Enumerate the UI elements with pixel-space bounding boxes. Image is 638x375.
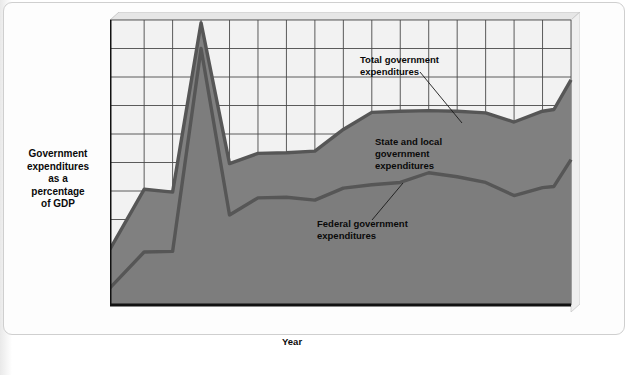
x-tick-label-1955: 1955 xyxy=(247,311,269,312)
annotation-federal-line-1: Federal government xyxy=(317,218,409,229)
x-tick-label-1965: 1965 xyxy=(304,311,326,312)
x-tick-label-1990: 1990 xyxy=(447,311,468,312)
annotation-state-line-2: government xyxy=(375,148,430,159)
x-tick-label-1950: 1950 xyxy=(219,311,240,312)
y-axis-title: Government expenditures as a percentage … xyxy=(12,148,104,211)
annotation-state-line-1: State and local xyxy=(375,136,442,147)
plot-bevel-right xyxy=(571,12,580,312)
x-tick-label-2010: 2010 xyxy=(560,311,580,312)
y-axis-title-line-2: expenditures xyxy=(12,161,104,174)
chart-page: Government expenditures as a percentage … xyxy=(0,0,638,375)
annotation-state-line-3: expenditures xyxy=(375,160,434,171)
x-tick-label-1985: 1985 xyxy=(418,311,440,312)
x-tick-label-1940: 1940 xyxy=(162,311,183,312)
annotation-federal-line-2: expenditures xyxy=(317,230,376,241)
plot-bevel-top xyxy=(110,12,580,20)
x-tick-label-1995: 1995 xyxy=(475,311,497,312)
y-axis-title-line-5: of GDP xyxy=(12,198,104,211)
x-tick-label-1945: 1945 xyxy=(190,311,212,312)
annotation-total-line-2: expenditures xyxy=(360,66,419,77)
x-tick-label-1960: 1960 xyxy=(276,311,297,312)
plot-area: 05101520253035404550 1929193519401945195… xyxy=(110,12,580,312)
y-axis-title-line-4: percentage xyxy=(12,186,104,199)
x-tick-label-2000: 2000 xyxy=(504,311,525,312)
x-tick-label-2005: 2005 xyxy=(532,311,554,312)
x-axis-title: Year xyxy=(282,336,302,347)
y-axis-title-line-1: Government xyxy=(12,148,104,161)
x-axis-tick-labels: 1929193519401945195019551960196519701975… xyxy=(110,311,580,312)
x-tick-label-1970: 1970 xyxy=(333,311,354,312)
x-tick-label-1975: 1975 xyxy=(361,311,383,312)
x-tick-label-1929: 1929 xyxy=(110,311,121,312)
x-tick-label-1935: 1935 xyxy=(134,311,156,312)
annotation-total-line-1: Total government xyxy=(360,54,440,65)
area-chart-svg: 05101520253035404550 1929193519401945195… xyxy=(110,12,580,312)
x-tick-label-1980: 1980 xyxy=(390,311,411,312)
y-axis-title-line-3: as a xyxy=(12,173,104,186)
